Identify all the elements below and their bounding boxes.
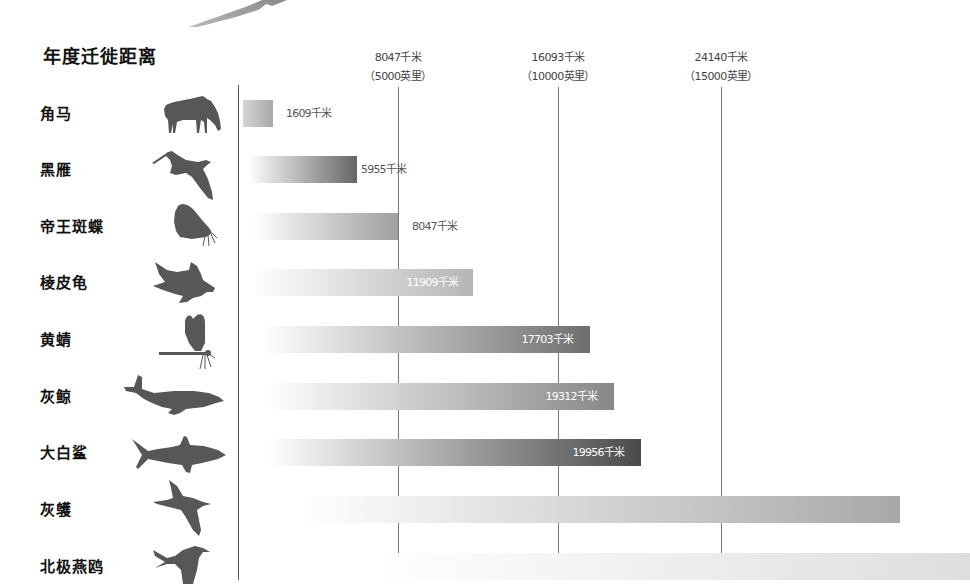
x-tick-16093: 16093千米 （10000英里） <box>498 48 618 86</box>
x-tick-8047: 8047千米 （5000英里） <box>338 48 458 86</box>
shearwater-icon <box>153 480 212 537</box>
bar: 11909千米 <box>253 269 473 296</box>
bar <box>370 553 970 580</box>
row-dragonfly: 黄蜻 17703千米 <box>0 312 862 368</box>
value-label: 11909千米 <box>407 269 458 296</box>
row-gray-whale: 灰鲸 19312千米 <box>0 369 862 425</box>
tick-km-label: 8047千米 <box>338 48 458 67</box>
category-label: 棱皮龟 <box>40 255 88 311</box>
category-label: 灰鲸 <box>40 369 72 425</box>
turtle-icon <box>153 260 216 303</box>
tick-km-label: 24140千米 <box>661 48 781 67</box>
wildebeest-icon <box>163 95 221 135</box>
row-leatherback-turtle: 棱皮龟 11909千米 <box>0 255 862 311</box>
butterfly-icon <box>172 202 218 246</box>
shark-icon <box>132 435 226 473</box>
category-label: 黑雁 <box>40 142 72 198</box>
chart-title: 年度迁徙距离 <box>43 46 157 68</box>
row-goose: 黑雁 5955千米 <box>0 142 862 198</box>
tick-mile-label: （15000英里） <box>661 67 781 86</box>
bar <box>300 496 900 523</box>
bar: 17703千米 <box>262 326 590 353</box>
row-wildebeest: 角马 1609千米 <box>0 86 862 142</box>
tick-km-label: 16093千米 <box>498 48 618 67</box>
category-label: 帝王斑蝶 <box>40 199 104 255</box>
tick-mile-label: （5000英里） <box>338 67 458 86</box>
x-tick-24140: 24140千米 （15000英里） <box>661 48 781 86</box>
whale-icon <box>124 373 224 415</box>
category-label: 黄蜻 <box>40 312 72 368</box>
row-great-white-shark: 大白鲨 19956千米 <box>0 425 862 481</box>
bar: 5955千米 <box>248 156 357 183</box>
tick-mile-label: （10000英里） <box>498 67 618 86</box>
bar: 19956千米 <box>268 439 641 466</box>
value-label: 19956千米 <box>573 439 624 466</box>
goose-icon <box>150 148 214 200</box>
row-sooty-shearwater: 灰鹱 <box>0 482 862 538</box>
bar: 19312千米 <box>268 383 614 410</box>
value-label: 8047千米 <box>412 213 457 240</box>
bird-wing-decoration-icon <box>0 0 862 30</box>
tern-icon <box>153 546 210 584</box>
category-label: 北极燕鸥 <box>40 539 104 588</box>
value-label: 19312千米 <box>546 383 597 410</box>
dragonfly-icon <box>157 313 216 370</box>
category-label: 大白鲨 <box>40 425 88 481</box>
value-label: 5955千米 <box>361 156 406 183</box>
row-monarch-butterfly: 帝王斑蝶 8047千米 <box>0 199 862 255</box>
bar: 1609千米 <box>243 100 273 127</box>
value-label: 17703千米 <box>522 326 573 353</box>
category-label: 角马 <box>40 86 72 142</box>
value-label: 1609千米 <box>286 100 331 127</box>
category-label: 灰鹱 <box>40 482 72 538</box>
bar: 8047千米 <box>253 213 398 240</box>
row-arctic-tern: 北极燕鸥 <box>0 539 862 588</box>
